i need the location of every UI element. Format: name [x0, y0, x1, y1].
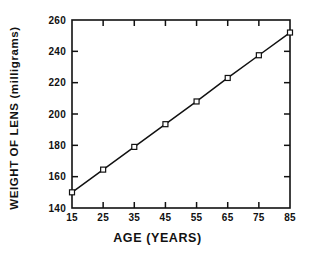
line-chart-plot: 140160180200220240260 1525354555657585 [0, 0, 315, 255]
data-point-marker [288, 30, 293, 35]
x-tick-label: 25 [97, 212, 109, 223]
data-point-marker [163, 122, 168, 127]
data-point-marker [194, 99, 199, 104]
x-tick-label: 85 [284, 212, 296, 223]
data-point-marker [256, 53, 261, 58]
y-tick-label: 160 [48, 171, 66, 182]
data-point-marker [70, 190, 75, 195]
y-tick-label: 220 [48, 77, 66, 88]
data-point-marker [132, 144, 137, 149]
data-point-marker [225, 75, 230, 80]
x-tick-label: 15 [66, 212, 78, 223]
x-tick-label: 75 [253, 212, 265, 223]
chart-figure: 140160180200220240260 1525354555657585 A… [0, 0, 315, 255]
y-axis-tick-labels: 140160180200220240260 [48, 15, 66, 214]
y-tick-label: 240 [48, 46, 66, 57]
y-tick-label: 260 [48, 15, 66, 26]
x-tick-label: 65 [222, 212, 234, 223]
y-axis-title: WEIGHT OF LENS (milligrams) [8, 18, 20, 218]
plot-frame [72, 20, 290, 208]
y-tick-label: 200 [48, 109, 66, 120]
y-tick-label: 180 [48, 140, 66, 151]
x-tick-label: 55 [191, 212, 203, 223]
x-tick-label: 35 [128, 212, 140, 223]
x-tick-label: 45 [160, 212, 172, 223]
data-point-marker [101, 167, 106, 172]
x-axis-tick-labels: 1525354555657585 [66, 212, 296, 223]
x-axis-title: AGE (YEARS) [0, 231, 315, 245]
y-tick-label: 140 [48, 203, 66, 214]
